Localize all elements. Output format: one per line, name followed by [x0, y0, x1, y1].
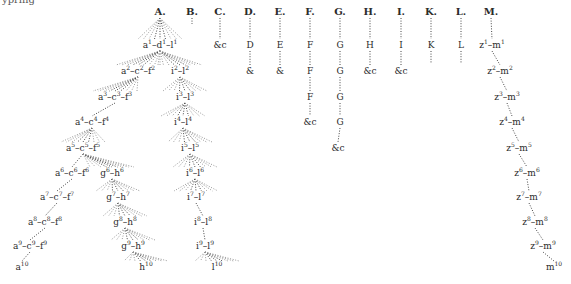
species-header-i: I. — [397, 7, 405, 17]
connector-line — [527, 179, 529, 191]
node-label-z6: z6–m6 — [514, 168, 539, 178]
node-label-a2: a2–c2–f2 — [121, 66, 155, 76]
connector-line — [500, 77, 507, 91]
connector-line — [183, 128, 190, 142]
connector-line — [492, 51, 500, 65]
node-label-m10: m10 — [546, 262, 562, 272]
species-header-m: M. — [484, 7, 499, 17]
node-label-z7: z7–m7 — [516, 192, 541, 202]
node-label-z3: z3–m3 — [494, 92, 519, 102]
node-label-h2: &c — [363, 66, 376, 76]
connector-line — [96, 179, 112, 191]
connector-line — [167, 103, 186, 116]
node-label-z1: z1–m1 — [479, 40, 504, 50]
node-label-i6: i6–l6 — [186, 168, 204, 178]
node-label-g2: G — [336, 66, 343, 76]
connector-line — [195, 252, 205, 261]
species-header-g: G. — [334, 7, 346, 17]
node-label-z2: z2–m2 — [487, 66, 512, 76]
connector-line — [173, 154, 190, 167]
node-label-g6: g6–h6 — [100, 168, 124, 178]
connector-line — [137, 77, 138, 91]
node-label-d1: D — [246, 40, 253, 50]
connector-line — [102, 179, 113, 191]
node-label-i2: i2–l2 — [171, 66, 189, 76]
connector-line — [155, 18, 161, 39]
connector-line — [201, 252, 206, 261]
connector-line — [163, 77, 180, 91]
node-label-i7: i7–l7 — [187, 192, 205, 202]
node-label-d2: & — [246, 66, 254, 76]
node-label-i3: i3–l3 — [176, 92, 194, 102]
connector-line — [183, 128, 185, 142]
species-header-e: E. — [274, 7, 285, 17]
connector-line — [109, 203, 119, 216]
connector-line — [133, 252, 135, 261]
node-label-a1: a1–d1–l1 — [143, 40, 178, 50]
node-label-f4: &c — [303, 117, 316, 127]
connector-line — [180, 77, 202, 91]
connector-line — [130, 252, 134, 261]
species-header-f: F. — [305, 7, 315, 17]
darwin-divergence-diagram: ypring A.B.C.D.E.F.G.H.I.K.L.M.&cD&E&FFF… — [0, 0, 571, 284]
node-label-i2: &c — [394, 66, 407, 76]
node-label-a5: a5–c5–f5 — [66, 143, 100, 153]
node-label-f2: F — [307, 66, 313, 76]
connector-line — [138, 18, 160, 39]
node-label-g7: g7–h7 — [106, 192, 130, 202]
node-label-a3: a3–c3–f3 — [98, 92, 132, 102]
connector-line — [543, 252, 554, 261]
node-label-l1: L — [458, 40, 464, 50]
node-label-f1: F — [307, 40, 313, 50]
node-label-i1: I — [399, 40, 403, 50]
connector-line — [180, 77, 191, 91]
connector-line — [180, 77, 181, 91]
species-header-l: L. — [456, 7, 467, 17]
node-label-c1: &c — [213, 40, 226, 50]
connector-line — [67, 128, 93, 142]
node-label-f3: F — [307, 92, 313, 102]
node-label-i5: i5–l5 — [181, 143, 199, 153]
node-label-a8: a8–c8–f8 — [28, 217, 62, 227]
species-header-k: K. — [425, 7, 437, 17]
connector-line — [512, 128, 519, 142]
connector-line — [160, 18, 171, 39]
connector-line — [195, 179, 196, 191]
node-label-z9: z9–m9 — [530, 241, 555, 251]
connector-line — [205, 252, 206, 261]
species-header-h: H. — [364, 7, 377, 17]
node-label-g8: g8–h8 — [113, 217, 137, 227]
connector-line — [72, 128, 92, 142]
node-label-g1: G — [336, 40, 343, 50]
connector-line — [149, 18, 160, 39]
connector-line — [203, 228, 205, 240]
connector-line — [161, 103, 185, 116]
node-label-i4: i4–l4 — [174, 117, 192, 127]
node-label-z8: z8–m8 — [522, 217, 547, 227]
species-header-d: D. — [244, 7, 256, 17]
connector-line — [160, 51, 186, 65]
connector-line — [138, 51, 160, 65]
connector-line — [160, 18, 166, 39]
node-label-e1: E — [277, 40, 284, 50]
connector-line — [93, 77, 138, 91]
connector-line — [491, 18, 492, 39]
connector-line — [169, 77, 181, 91]
connector-line — [180, 77, 207, 91]
node-label-g9: g9–h9 — [121, 241, 145, 251]
connector-line — [92, 128, 100, 142]
node-label-z4: z4–m4 — [499, 117, 524, 127]
node-label-a4: a4–c4–f4 — [75, 117, 109, 127]
node-label-a10: a10 — [15, 262, 28, 272]
species-header-b: B. — [186, 7, 198, 17]
node-label-g4: G — [336, 117, 343, 127]
connector-line — [116, 51, 160, 65]
node-label-g3: G — [336, 92, 343, 102]
node-label-a6: a6–c6–f6 — [55, 168, 89, 178]
node-label-a7: a7–c7–f7 — [40, 192, 74, 202]
node-label-a9: a9–c9–f9 — [13, 241, 47, 251]
species-header-c: C. — [214, 7, 225, 17]
connector-line — [124, 252, 133, 261]
node-label-h1: H — [366, 40, 374, 50]
node-label-e2: & — [276, 66, 284, 76]
